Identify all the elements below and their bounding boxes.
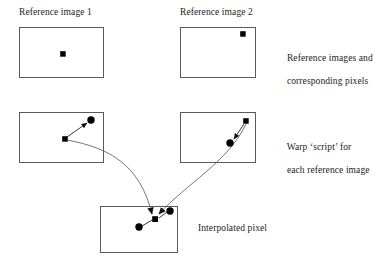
warp-script-right-box — [180, 112, 256, 163]
reference-images-caption-line-2: corresponding pixels — [287, 76, 368, 86]
reference-images-caption: Reference images and corresponding pixel… — [277, 41, 373, 99]
warp-script-caption-line-2: each reference image — [287, 165, 370, 175]
reference-image-2-box — [180, 27, 256, 78]
reference-image-1-box — [19, 27, 104, 78]
warp-script-caption-line-1: Warp ‘script’ for — [287, 142, 352, 152]
reference-images-caption-line-1: Reference images and — [287, 53, 373, 63]
interpolated-pixel-box — [100, 206, 178, 253]
interpolated-pixel-caption: Interpolated pixel — [198, 223, 267, 235]
warp-script-left-box — [19, 112, 104, 163]
reference-image-1-title: Reference image 1 — [19, 7, 92, 18]
warp-interpolation-diagram: Reference image 1 Reference image 2 — [0, 0, 387, 267]
warp-script-caption: Warp ‘script’ for each reference image — [277, 130, 370, 188]
reference-image-2-title: Reference image 2 — [180, 7, 253, 18]
